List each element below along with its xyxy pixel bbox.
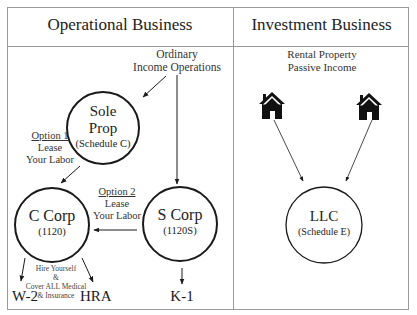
w2-output: W-2: [10, 288, 40, 305]
arrow-to-sole-prop: [143, 76, 166, 97]
rental-property-line1: Rental Property: [272, 48, 372, 61]
house-icon: [259, 92, 285, 119]
rental-property-line2: Passive Income: [272, 61, 372, 74]
option1-label: Option 1 Lease Your Labor: [24, 130, 76, 166]
sole-prop-schedule: (Schedule C): [67, 137, 139, 150]
s-corp-form: (1120S): [143, 224, 217, 237]
option1-title: Option 1: [24, 130, 76, 142]
house-icon: [356, 93, 382, 120]
k1-output: K-1: [168, 288, 196, 305]
ordinary-income-line2: Income Operations: [127, 61, 227, 74]
rental-property-label: Rental Property Passive Income: [272, 48, 372, 74]
option2-line2: Your Labor: [90, 210, 144, 222]
arrow-house2-to-llc: [346, 120, 372, 181]
sole-prop-line1: Sole: [67, 103, 139, 120]
option2-title: Option 2: [90, 186, 144, 198]
option1-line2: Your Labor: [24, 154, 76, 166]
s-corp-title: S Corp: [143, 205, 217, 224]
llc-schedule: (Schedule E): [286, 225, 362, 238]
c-corp-node: C Corp (1120): [15, 206, 89, 238]
c-corp-title: C Corp: [15, 206, 89, 225]
sole-prop-node: Sole Prop (Schedule C): [67, 103, 139, 150]
llc-node: LLC (Schedule E): [286, 207, 362, 238]
option2-label: Option 2 Lease Your Labor: [90, 186, 144, 222]
ordinary-income-line1: Ordinary: [127, 48, 227, 61]
c-corp-form: (1120): [15, 225, 89, 238]
hra-output: HRA: [80, 288, 110, 305]
c-corp-note-line1: Hire Yourself: [22, 264, 90, 273]
option2-line1: Lease: [90, 198, 144, 210]
ordinary-income-label: Ordinary Income Operations: [127, 48, 227, 74]
llc-title: LLC: [286, 207, 362, 225]
sole-prop-line2: Prop: [67, 120, 139, 137]
option1-line1: Lease: [24, 142, 76, 154]
arrow-house1-to-llc: [274, 120, 303, 181]
arrow-option1: [61, 166, 80, 183]
c-corp-note-line2: &: [22, 273, 90, 282]
s-corp-node: S Corp (1120S): [143, 205, 217, 237]
